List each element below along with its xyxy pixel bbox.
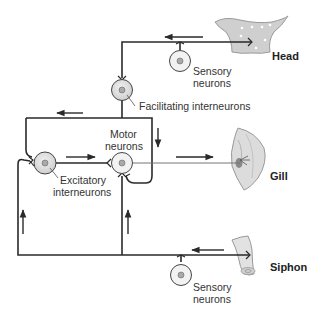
head-organ <box>215 16 288 53</box>
motor-label-1: Motor <box>110 128 137 140</box>
gill-organ <box>231 128 265 190</box>
excitatory-interneuron <box>34 152 56 174</box>
facilitating-interneuron <box>112 80 133 101</box>
head-label: Head <box>272 50 299 62</box>
sensory-bottom-label-2: neurons <box>193 293 231 305</box>
facilitating-leader <box>127 95 135 106</box>
facilitating-label: Facilitating interneurons <box>139 100 250 112</box>
motor-label-2: neurons <box>105 140 143 152</box>
sensory-bottom-label-1: Sensory <box>193 281 232 293</box>
siphon-label: Siphon <box>270 261 308 273</box>
siphon-sensory-neuron <box>171 265 192 286</box>
aplysia-circuit-diagram: Head Gill Siphon <box>0 0 323 318</box>
gill-label: Gill <box>270 170 288 182</box>
head-sensory-neuron <box>170 51 191 72</box>
sensory-top-label-2: neurons <box>193 77 231 89</box>
excitatory-label-2: interneurons <box>53 186 111 198</box>
motor-neuron <box>112 153 133 174</box>
excitatory-label-1: Excitatory <box>60 174 107 186</box>
sensory-top-label-1: Sensory <box>193 65 232 77</box>
